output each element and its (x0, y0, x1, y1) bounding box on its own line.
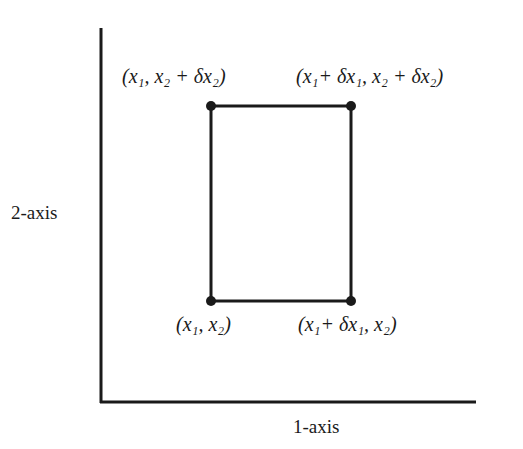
corner-dot-bottom-right (346, 296, 356, 306)
y-axis-label: 2-axis (11, 202, 57, 223)
corner-label-top-right: (x₁+ δx₁, x₂ + δx₂) (296, 65, 444, 88)
corner-label-top-left: (x₁, x₂ + δx₂) (122, 65, 226, 88)
differential-rectangle (211, 106, 351, 301)
corner-label-bottom-right: (x₁+ δx₁, x₂) (298, 313, 397, 336)
corner-dot-bottom-left (206, 296, 216, 306)
x-axis-label: 1-axis (293, 416, 339, 437)
coordinate-diagram: 2-axis 1-axis (x₁, x₂ + δx₂) (x₁+ δx₁, x… (0, 0, 523, 449)
corner-dot-top-right (346, 101, 356, 111)
corner-dot-top-left (206, 101, 216, 111)
corner-label-bottom-left: (x₁, x₂) (176, 313, 231, 336)
